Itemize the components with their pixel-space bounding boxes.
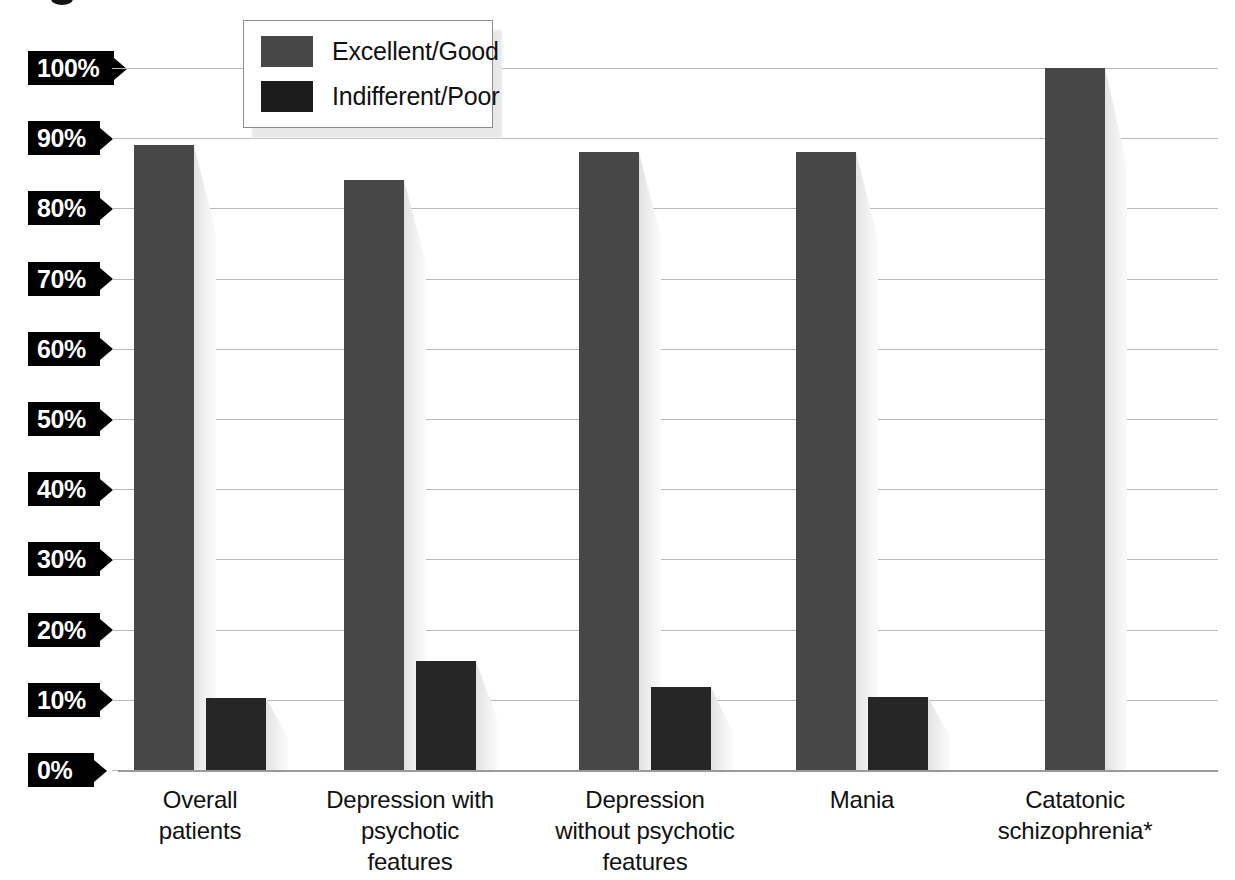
y-axis-tick-label: 90% [28,121,100,155]
clipped-glyph-artifact [51,0,73,5]
bar-indifferent-poor-1[interactable] [416,661,476,770]
bar-excellent-good-1[interactable] [344,180,404,770]
bar-chart-figure: 100%90%80%70%60%50%40%30%20%10%0% Excell… [0,0,1235,880]
bar-shadow [476,661,498,770]
y-axis-tick-70: 70% [28,262,113,296]
y-axis-tick-label: 0% [28,753,94,787]
bar-shadow [1105,68,1127,770]
bar-excellent-good-0[interactable] [134,145,194,770]
x-axis-category-label-0: Overallpatients [100,784,300,846]
x-axis-category-line: patients [100,815,300,846]
legend-swatch-excellent-good-icon [261,36,313,67]
y-axis-tick-label: 70% [28,262,100,296]
x-axis-category-label-2: Depressionwithout psychoticfeatures [515,784,775,877]
x-axis-category-line: Depression with [285,784,535,815]
plot-area [118,68,1218,770]
bar-shadow [856,152,878,770]
y-axis-tick-label: 100% [28,51,114,85]
bar-shadow [928,697,950,770]
bar-excellent-good-3[interactable] [796,152,856,770]
x-axis-category-line: features [515,846,775,877]
legend-label-indifferent-poor: Indifferent/Poor [332,82,499,111]
x-axis-category-line: Mania [762,784,962,815]
y-axis-tick-label: 80% [28,191,100,225]
y-axis-tick-label: 60% [28,332,100,366]
x-axis-category-line: psychotic [285,815,535,846]
x-axis-category-label-1: Depression withpsychoticfeatures [285,784,535,877]
chart-legend: Excellent/Good Indifferent/Poor [243,20,493,128]
bar-indifferent-poor-2[interactable] [651,687,711,770]
bar-shadow [194,145,216,770]
y-axis-tick-60: 60% [28,332,113,366]
y-axis-tick-0: 0% [28,753,107,787]
y-axis-tick-label: 40% [28,472,100,506]
x-axis-category-label-4: Catatonicschizophrenia* [945,784,1205,846]
y-axis-tick-pointer-icon [94,760,107,782]
x-axis-category-line: Depression [515,784,775,815]
x-axis-category-line: features [285,846,535,877]
bar-indifferent-poor-3[interactable] [868,697,928,770]
bar-excellent-good-4[interactable] [1045,68,1105,770]
legend-swatch-indifferent-poor-icon [261,81,313,112]
bar-shadow [266,698,288,770]
legend-item-indifferent-poor: Indifferent/Poor [261,74,492,119]
y-axis-tick-40: 40% [28,472,113,506]
y-axis-tick-80: 80% [28,191,113,225]
x-axis-category-line: Overall [100,784,300,815]
y-axis-tick-label: 30% [28,542,100,576]
legend-label-excellent-good: Excellent/Good [332,37,499,66]
y-axis-tick-50: 50% [28,402,113,436]
y-axis-tick-label: 20% [28,613,100,647]
bar-indifferent-poor-0[interactable] [206,698,266,770]
x-axis-category-line: Catatonic [945,784,1205,815]
x-axis-category-line: without psychotic [515,815,775,846]
y-axis-tick-label: 50% [28,402,100,436]
bar-shadow [639,152,661,770]
legend-item-excellent-good: Excellent/Good [261,29,492,74]
y-axis-tick-10: 10% [28,683,113,717]
y-axis-tick-20: 20% [28,613,113,647]
x-axis-category-line: schizophrenia* [945,815,1205,846]
y-axis-tick-30: 30% [28,542,113,576]
x-axis-category-label-3: Mania [762,784,962,815]
y-axis-tick-90: 90% [28,121,113,155]
gridline-0 [118,770,1218,772]
y-axis-tick-label: 10% [28,683,100,717]
bar-excellent-good-2[interactable] [579,152,639,770]
